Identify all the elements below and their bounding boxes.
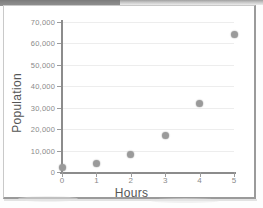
scatter-point [162,132,169,139]
scatter-point [196,100,203,107]
x-axis-tick-label: 3 [163,176,167,185]
x-axis-tick-label: 1 [94,176,98,185]
x-axis-line [60,172,236,174]
scatter-point [231,31,238,38]
scatter-point [59,164,66,171]
scatter-points [62,22,234,172]
y-axis-tick-labels: 010,00020,00030,00040,00050,00060,00070,… [0,0,55,208]
y-axis-tick-label: 10,000 [31,146,55,155]
y-axis-tick-label: 70,000 [31,18,55,27]
y-axis-tick-label: 20,000 [31,125,55,134]
chart-page: 010,00020,00030,00040,00050,00060,00070,… [0,0,263,208]
x-axis-tick-label: 4 [197,176,201,185]
x-axis-tick-label: 0 [60,176,64,185]
scatter-point [93,160,100,167]
y-axis-tick-label: 50,000 [31,60,55,69]
y-axis-tick-label: 60,000 [31,39,55,48]
y-axis-tick-label: 0 [51,168,55,177]
x-axis-title: Hours [0,186,263,200]
scatter-point [127,151,134,158]
y-axis-tick-label: 30,000 [31,103,55,112]
x-axis-tick-label: 2 [129,176,133,185]
x-axis-tick-label: 5 [232,176,236,185]
y-axis-tick-label: 40,000 [31,82,55,91]
y-axis-title: Population [10,48,24,158]
